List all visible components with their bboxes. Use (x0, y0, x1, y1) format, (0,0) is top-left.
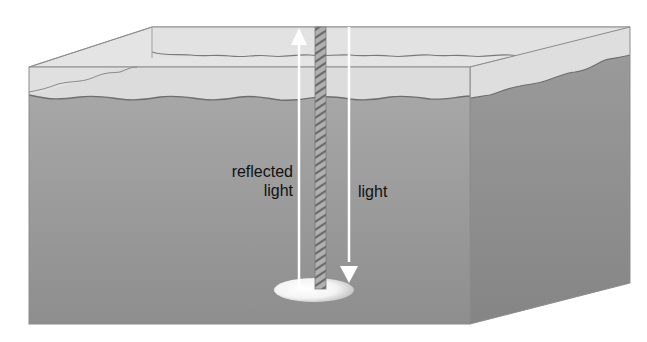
water-block-diagram (0, 0, 647, 342)
incident-light-label: light (358, 182, 387, 201)
submerged-disk (274, 278, 354, 302)
reflected-light-label: reflected light (232, 162, 293, 200)
rope (315, 27, 326, 289)
reflected-light-label-line1: reflected (232, 162, 293, 181)
reflected-light-label-line2: light (232, 181, 293, 200)
water-side-face (470, 27, 630, 324)
